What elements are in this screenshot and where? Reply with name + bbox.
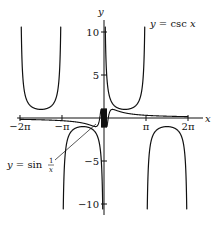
x-tick-label: −π xyxy=(55,121,70,132)
y-tick-label: 5 xyxy=(93,70,99,81)
y-tick-label: 10 xyxy=(86,27,99,38)
x-tick-label: 2π xyxy=(182,121,195,132)
sin-label-numerator: 1 xyxy=(49,157,53,165)
oscillation-block xyxy=(101,108,107,127)
csc-label: y = csc x xyxy=(149,18,196,29)
y-tick-label: −10 xyxy=(78,199,99,210)
x-axis-label: x xyxy=(205,113,211,124)
sin-label-denominator: x xyxy=(49,166,53,174)
csc-curve-branch xyxy=(63,127,102,210)
x-tick-label: π xyxy=(143,121,150,132)
sin-label: y = sin 1 x xyxy=(6,157,54,174)
y-tick-label: −5 xyxy=(84,156,99,167)
chart-plot: −2π−ππ2π105−5−10 y x y = csc x y = sin 1… xyxy=(0,0,214,227)
x-tick-label: −2π xyxy=(9,121,31,132)
chart-container: −2π−ππ2π105−5−10 y x y = csc x y = sin 1… xyxy=(0,0,214,227)
svg-text:y = sin: y = sin xyxy=(6,159,43,170)
csc-curve-branch xyxy=(147,127,186,210)
csc-curve-branch xyxy=(105,27,144,110)
y-axis-label: y xyxy=(97,6,104,17)
csc-curve-branch xyxy=(21,27,60,110)
